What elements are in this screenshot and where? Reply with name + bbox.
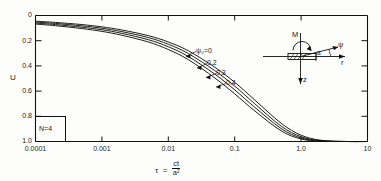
curve-label-0.3: 0.3 xyxy=(216,69,226,76)
curve-ψ=0.4 xyxy=(36,24,368,141)
x-axis-title: τ = ct a² xyxy=(155,160,180,177)
x-tick-label-1.0: 1.0 xyxy=(285,145,317,152)
x-axis-ticks xyxy=(36,16,368,142)
x-axis-title-symbol: τ xyxy=(155,166,158,175)
curve-ψ=0.2 xyxy=(36,22,368,142)
y-axis-ticks xyxy=(36,16,368,142)
y-tick-label-0.6: 0.6 xyxy=(8,87,32,94)
y-tick-label-0: 0 xyxy=(8,11,32,18)
inset-vertical-axis-label: z xyxy=(303,76,307,84)
x-tick-label-0.1: 0.1 xyxy=(219,145,251,152)
y-tick-label-0.4: 0.4 xyxy=(8,62,32,69)
y-tick-label-0.2: 0.2 xyxy=(8,37,32,44)
plot-frame xyxy=(36,16,368,142)
y-tick-label-0.8: 0.8 xyxy=(8,112,32,119)
x-tick-label-0.001: 0.001 xyxy=(82,145,122,152)
y-tick-label-1.0: 1.0 xyxy=(8,137,32,144)
curve-label-psi-0: ψ₀=0 xyxy=(196,47,212,54)
y-axis-title: U xyxy=(10,74,16,82)
x-tick-label-0.0001: 0.0001 xyxy=(14,145,58,152)
inset-moment-label: M xyxy=(292,31,298,39)
x-axis-title-denominator: a² xyxy=(172,169,181,177)
curve-ψ=0.3 xyxy=(36,23,368,141)
x-tick-label-10: 10 xyxy=(354,145,381,152)
curve-ψ=0 xyxy=(36,21,368,141)
chart-figure: 0 0.2 0.4 0.6 0.8 1.0 U 0.0001 0.001 0.0… xyxy=(0,0,381,181)
curve-label-0.4: 0.4 xyxy=(226,79,236,86)
inset-angle-label: ψ xyxy=(338,41,343,49)
chart-canvas xyxy=(0,0,381,181)
inset-radial-axis-label: r xyxy=(341,59,344,67)
inset-width-label: a xyxy=(317,50,321,57)
curve-label-0.2: 0.2 xyxy=(207,59,217,66)
n-value-label: N=4 xyxy=(39,125,52,132)
x-axis-title-fraction: ct a² xyxy=(172,160,181,177)
data-curves xyxy=(36,21,368,141)
x-tick-label-0.01: 0.01 xyxy=(150,145,186,152)
x-axis-title-equals: = xyxy=(163,166,168,175)
